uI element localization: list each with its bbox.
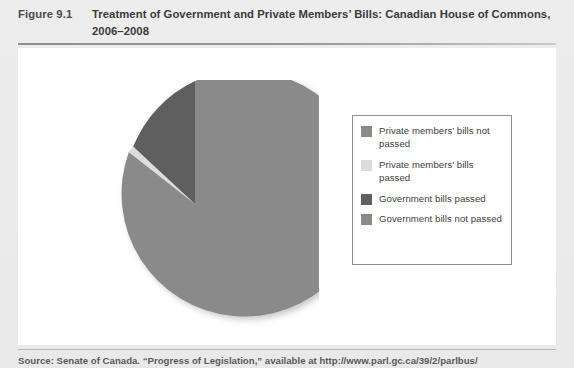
legend-item-private-passed: Private members’ bills passed xyxy=(359,158,505,185)
legend-swatch-government-passed xyxy=(361,194,372,205)
legend-label-private-passed: Private members’ bills passed xyxy=(379,158,505,185)
chart-panel: Private members’ bills not passed Privat… xyxy=(18,48,556,345)
legend-item-private-not-passed: Private members’ bills not passed xyxy=(359,124,505,151)
figure-root: Figure 9.1 Treatment of Government and P… xyxy=(0,0,574,368)
header-divider xyxy=(18,43,556,45)
legend-swatch-government-not-passed xyxy=(361,214,372,225)
legend-label-government-not-passed: Government bills not passed xyxy=(379,212,505,225)
legend-label-private-not-passed: Private members’ bills not passed xyxy=(379,124,505,151)
figure-number: Figure 9.1 xyxy=(18,6,92,23)
source-divider xyxy=(18,349,556,350)
pie-chart xyxy=(71,80,319,328)
source-note: Source: Senate of Canada. “Progress of L… xyxy=(18,354,563,367)
legend-label-government-passed: Government bills passed xyxy=(379,192,505,205)
legend-item-government-not-passed: Government bills not passed xyxy=(359,212,505,225)
chart-legend: Private members’ bills not passed Privat… xyxy=(352,115,512,265)
figure-header: Figure 9.1 Treatment of Government and P… xyxy=(18,6,556,40)
figure-title: Treatment of Government and Private Memb… xyxy=(92,6,556,40)
legend-item-government-passed: Government bills passed xyxy=(359,192,505,205)
pie-slices xyxy=(122,80,319,317)
legend-swatch-private-passed xyxy=(361,160,372,171)
legend-swatch-private-not-passed xyxy=(361,126,372,137)
pie-slice-private-not-passed xyxy=(122,80,319,317)
pie-chart-svg xyxy=(71,80,319,328)
